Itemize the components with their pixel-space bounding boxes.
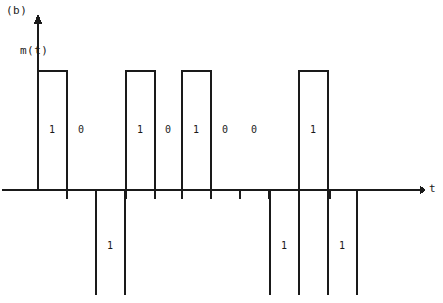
bipolar-ami-waveform-figure: (b) m(t) t 10101001111 [0,0,443,303]
bit-label-lower: 1 [335,240,349,251]
bit-label-lower: 1 [103,240,117,251]
panel-tag-label: (b) [6,4,27,17]
t-axis-arrowhead [420,186,426,195]
axes-group [2,14,426,195]
x-axis-label: t [429,182,436,195]
m-axis-arrowhead [34,14,43,24]
bit-label-upper: 1 [133,124,147,135]
pulse-train-group [38,71,357,295]
bit-label-lower: 1 [277,240,291,251]
waveform-canvas [0,0,443,303]
bit-label-upper: 1 [306,124,320,135]
tick-marks-group [67,190,357,199]
bit-label-upper: 0 [247,124,261,135]
bit-label-upper: 0 [218,124,232,135]
bit-label-upper: 1 [45,124,59,135]
bit-label-upper: 0 [74,124,88,135]
y-axis-label: m(t) [20,44,49,57]
bit-label-upper: 0 [161,124,175,135]
bit-label-upper: 1 [189,124,203,135]
